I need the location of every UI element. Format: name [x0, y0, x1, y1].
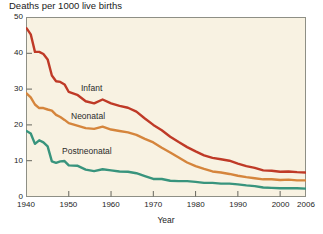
series-label-postneonatal: Postneonatal	[62, 146, 112, 156]
chart-title: Deaths per 1000 live births	[9, 0, 122, 11]
x-tick-label: 2000	[267, 200, 295, 210]
series-label-neonatal: Neonatal	[71, 111, 105, 121]
x-tick-label: 1980	[182, 200, 210, 210]
y-tick-label: 50	[0, 12, 23, 22]
x-tick-label: 1960	[97, 200, 125, 210]
x-tick-label: 1990	[224, 200, 252, 210]
x-tick-label: 1950	[54, 200, 82, 210]
x-tick-label: 1940	[12, 200, 40, 210]
y-tick-label: 20	[0, 120, 23, 130]
x-tick-label: 2006	[292, 200, 320, 210]
x-tick-label: 1970	[139, 200, 167, 210]
y-tick-label: 10	[0, 156, 23, 166]
y-tick-label: 40	[0, 48, 23, 58]
y-tick-label: 30	[0, 84, 23, 94]
series-label-infant: Infant	[81, 83, 102, 93]
plot-area	[26, 17, 306, 197]
x-axis-title: Year	[136, 215, 196, 225]
infant-mortality-line-chart: Deaths per 1000 live births 01020304050 …	[0, 0, 323, 234]
